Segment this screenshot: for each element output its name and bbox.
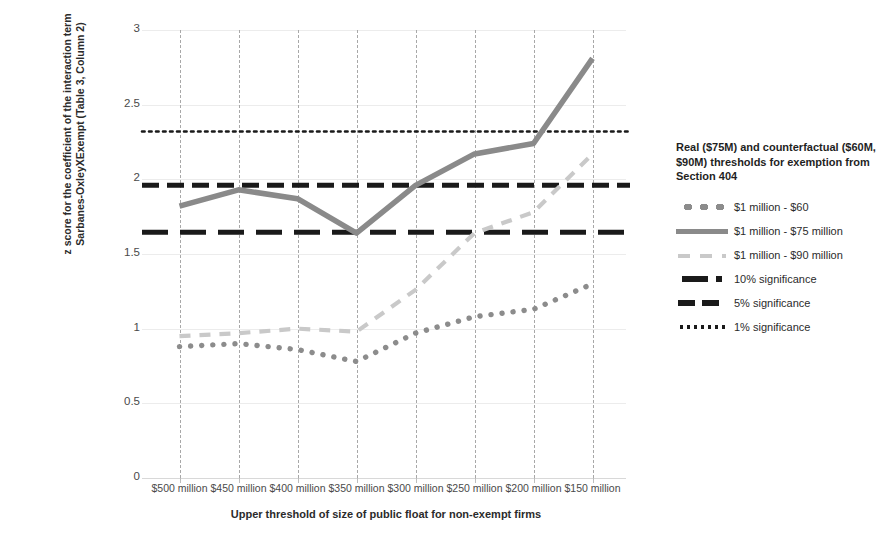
legend-key-glyph — [676, 229, 728, 234]
chart-legend: Real ($75M) and counterfactual ($60M, $9… — [676, 140, 881, 341]
y-axis-title-line1: z score for the coefficient of the inter… — [61, 14, 74, 255]
legend-key-glyph — [678, 300, 726, 306]
x-axis-tick-label: $150 million — [551, 482, 635, 494]
legend-item-label: $1 million - $75 million — [734, 225, 843, 237]
legend-item[interactable]: 5% significance — [676, 293, 881, 314]
chart-figure: z score for the coefficient of the inter… — [0, 0, 881, 545]
dotted-gray-key — [676, 201, 728, 213]
legend-item[interactable]: $1 million - $90 million — [676, 245, 881, 266]
y-axis-title: z score for the coefficient of the inter… — [52, 0, 96, 304]
legend-item-label: 10% significance — [734, 273, 817, 285]
y-axis-tick-label: 3 — [106, 22, 140, 34]
y-axis-tick-label: 1.5 — [106, 246, 140, 258]
series-canvas — [150, 30, 622, 478]
y-axis-tick-label: 2.5 — [106, 97, 140, 109]
legend-key-glyph — [678, 325, 726, 329]
dashed-long-black-key — [676, 273, 728, 285]
legend-key-glyph — [678, 254, 726, 258]
dotted-black-key — [676, 321, 728, 333]
dashed-black-key — [676, 297, 728, 309]
legend-key-glyph — [680, 204, 724, 210]
plot-area — [150, 30, 622, 478]
legend-item-label: 5% significance — [734, 297, 810, 309]
legend-item[interactable]: $1 million - $75 million — [676, 221, 881, 242]
x-axis-title: Upper threshold of size of public float … — [150, 508, 622, 520]
legend-item[interactable]: 1% significance — [676, 317, 881, 338]
solid-gray-key — [676, 225, 728, 237]
legend-item[interactable]: $1 million - $60 — [676, 197, 881, 218]
series-line-dotted — [180, 284, 593, 362]
legend-item-label: $1 million - $90 million — [734, 249, 843, 261]
legend-item-label: 1% significance — [734, 321, 810, 333]
legend-item-label: $1 million - $60 — [734, 201, 809, 213]
legend-key-glyph — [682, 276, 722, 282]
series-line-solid — [180, 58, 593, 233]
legend-item[interactable]: 10% significance — [676, 269, 881, 290]
series-line-dashed — [180, 154, 593, 336]
legend-items: $1 million - $60$1 million - $75 million… — [676, 197, 881, 338]
y-axis-title-line2: Sarbanes-OxleyXExempt (Table 3, Column 2… — [74, 22, 87, 245]
y-axis-tick-label: 0.5 — [106, 395, 140, 407]
y-axis-tick-label: 2 — [106, 171, 140, 183]
dashed-light-gray-key — [676, 249, 728, 261]
x-axis-baseline — [142, 478, 626, 479]
legend-title: Real ($75M) and counterfactual ($60M, $9… — [676, 140, 881, 184]
y-axis-tick-label: 1 — [106, 321, 140, 333]
y-axis-tick-label: 0 — [106, 470, 140, 482]
